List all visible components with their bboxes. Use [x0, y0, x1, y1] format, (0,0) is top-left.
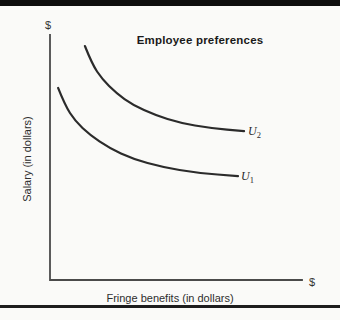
- curve-label-u2: U2: [248, 124, 261, 139]
- curve-u2: [85, 46, 244, 131]
- x-axis-dollar-label: $: [306, 276, 318, 290]
- curve-label-u2-base: U: [248, 124, 257, 138]
- y-axis-label: Salary (in dollars): [21, 99, 35, 219]
- curve-label-u1-base: U: [241, 169, 250, 183]
- indifference-curve-figure: Employee preferences $ $ U2 U1 Salary (i…: [0, 0, 340, 320]
- axes-lines: [50, 35, 302, 280]
- curve-label-u1: U1: [241, 169, 254, 184]
- curve-label-u1-sub: 1: [250, 175, 254, 185]
- x-axis-label: Fringe benefits (in dollars): [90, 292, 250, 306]
- chart-canvas: [0, 0, 340, 320]
- bottom-divider-rule: [0, 305, 340, 308]
- curve-u1: [58, 88, 238, 176]
- curve-label-u2-sub: 2: [257, 130, 261, 140]
